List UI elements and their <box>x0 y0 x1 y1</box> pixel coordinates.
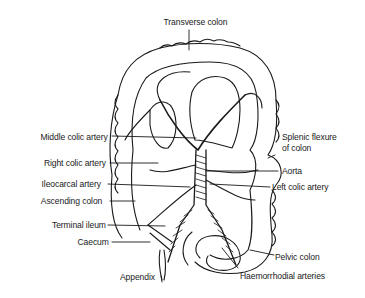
label-middle-colic-artery: Middle colic artery <box>41 131 108 142</box>
label-ileocarcal-artery: Ileocarcal artery <box>42 178 101 189</box>
leader-terminal-ileum <box>108 225 165 226</box>
label-aorta: Aorta <box>282 165 302 176</box>
ileocolic-artery-vessel <box>148 185 196 225</box>
leader-appendix <box>161 276 162 282</box>
label-caecum: Caecum <box>78 236 109 247</box>
label-haemorrhodial-arteries: Haemorrhodial arteries <box>240 270 325 281</box>
right-colic-artery-vessel <box>150 165 196 172</box>
label-right-colic-artery: Right colic artery <box>44 157 106 168</box>
label-pelvic-colon: Pelvic colon <box>275 251 320 262</box>
label-appendix: Appendix <box>120 271 155 282</box>
label-left-colic-artery: Left colic artery <box>272 181 328 192</box>
label-splenic-flexure-line1: Splenic flexure <box>282 131 337 142</box>
label-splenic-flexure-line2: of colon <box>282 142 311 153</box>
leader-ileocarcal <box>108 184 190 187</box>
label-ascending-colon: Ascending colon <box>41 195 102 206</box>
label-terminal-ileum: Terminal ileum <box>52 219 106 230</box>
label-transverse-colon: Transverse colon <box>164 16 228 27</box>
colon-anatomy-diagram: Transverse colon Middle colic artery Rig… <box>0 0 365 298</box>
